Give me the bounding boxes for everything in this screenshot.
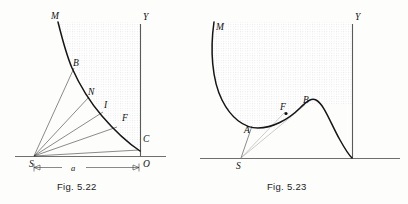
point-label-b-522: B (73, 58, 79, 68)
figure-5-23: M A F B S Y Fig. 5.23 (200, 12, 400, 192)
dimension-label-a-522: a (71, 163, 75, 173)
figure-sheet: M B N I F C S O Y a Fig. 5.22 (0, 0, 408, 204)
point-label-c-522: C (143, 134, 150, 144)
point-label-n-522: N (87, 87, 95, 97)
dimension-a-522 (34, 164, 139, 172)
point-label-s-522: S (29, 159, 34, 169)
point-label-b-523: B (303, 95, 309, 105)
shaded-region-522 (56, 20, 142, 152)
point-label-f-523: F (279, 102, 286, 112)
figure-5-22: M B N I F C S O Y a Fig. 5.22 (15, 11, 166, 192)
point-label-o-522: O (143, 159, 150, 169)
point-label-m-522: M (50, 11, 60, 21)
point-marker-f-523 (284, 112, 287, 115)
caption-fig-523: Fig. 5.23 (267, 181, 307, 192)
point-label-s-523: S (236, 161, 241, 171)
caption-fig-522: Fig. 5.22 (57, 181, 97, 192)
figures-canvas: M B N I F C S O Y a Fig. 5.22 (0, 0, 408, 204)
point-label-y-523: Y (355, 12, 362, 22)
point-label-y-522: Y (143, 12, 150, 22)
point-label-m-523: M (215, 22, 225, 32)
shaded-region-523 (208, 20, 354, 138)
point-label-a-523: A (243, 125, 250, 135)
point-label-f-522: F (121, 113, 128, 123)
